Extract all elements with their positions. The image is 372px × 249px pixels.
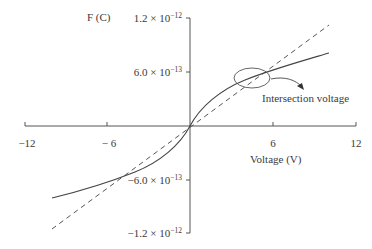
y-tick-label-upper: 6.0 × 10−13 [62,66,182,78]
y-tick-top-exponent: −12 [170,11,182,20]
intersection-ellipse [234,68,270,88]
arrowhead-icon [297,83,304,90]
x-tick-label-neg6: − 6 [94,138,124,149]
x-tick-label-12: 12 [341,138,371,149]
y-tick-top-mantissa: 1.2 × 10 [134,12,170,24]
y-tick-label-top: 1.2 × 10−12 [62,12,182,24]
x-tick-label-6: 6 [258,138,288,149]
y-tick-lower-exponent: −13 [170,173,182,182]
y-tick-label-bottom: −1.2 × 10−12 [62,227,182,239]
y-tick-bottom-exponent: −12 [170,226,182,235]
y-tick-upper-mantissa: 6.0 × 10 [134,66,170,78]
intersection-annotation-label: Intersection voltage [262,93,349,104]
y-tick-upper-exponent: −13 [170,65,182,74]
x-tick-label-neg12: −12 [12,138,42,149]
y-tick-lower-mantissa: −6.0 × 10 [128,174,171,186]
chart-canvas [0,0,372,249]
y-tick-bottom-mantissa: −1.2 × 10 [128,227,171,239]
x-axis-title: Voltage (V) [250,154,301,165]
annotation-arrow [271,78,302,87]
y-tick-label-lower: −6.0 × 10−13 [62,174,182,186]
